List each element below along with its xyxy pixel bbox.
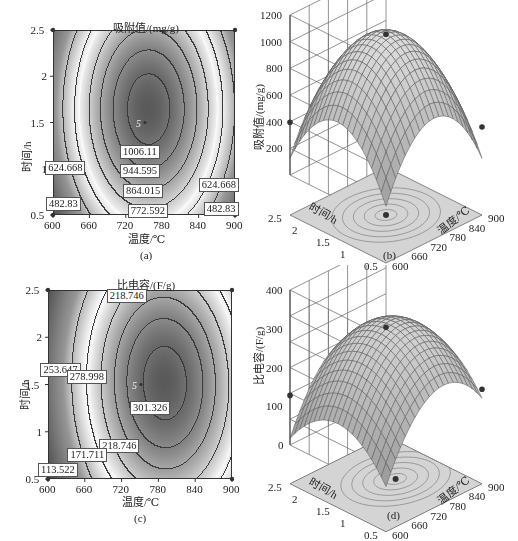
z-tick-label: 200	[266, 363, 283, 374]
temp-tick-label: 900	[488, 482, 505, 493]
surface-plot-capacitance: 比电容/(F/g) 时间/h 温度/℃ (d) 01002003004000.5…	[250, 265, 518, 538]
z-tick-label: 400	[266, 285, 283, 296]
x-tick-label: 780	[149, 484, 166, 495]
z-tick-label: 400	[266, 117, 283, 128]
x-tick-label: 660	[76, 484, 93, 495]
y-tick-label: 0.5	[31, 210, 45, 221]
y-tick-label: 2	[37, 332, 43, 343]
y-tick-label: 2	[42, 71, 48, 82]
y-tick-label: 1.5	[31, 118, 45, 129]
y-tick-label: 1.5	[26, 380, 40, 391]
x-tick-label: 720	[117, 220, 134, 231]
caption-a: (a)	[140, 250, 152, 261]
x-tick-label: 840	[186, 484, 203, 495]
z-tick-label: 600	[266, 90, 283, 101]
x-tick-label: 720	[113, 484, 130, 495]
contour-label: 218.746	[107, 289, 147, 303]
plot-title-a: 吸附值/(mg/g)	[113, 23, 179, 34]
temp-tick-label: 720	[430, 242, 447, 253]
time-tick-label: 1.5	[316, 237, 330, 248]
contour-label: 772.592	[128, 204, 168, 218]
contour-plot-capacitance: 比电容/(F/g) 时间/h 温度/℃ (c) 6006607207808409…	[0, 265, 260, 538]
z-tick-label: 1000	[260, 37, 282, 48]
z-axis-label-b: 吸附值/(mg/g)	[250, 84, 266, 150]
z-tick-label: 100	[266, 401, 283, 412]
contour-label: 1006.11	[120, 145, 160, 159]
temp-tick-label: 780	[450, 232, 467, 243]
contour-plot-adsorption: 吸附值/(mg/g) 时间/h 温度/℃ (a) 600660720780840…	[0, 0, 260, 265]
temp-tick-label: 840	[469, 491, 486, 502]
y-tick-label: 1	[37, 427, 43, 438]
time-tick-label: 2.5	[268, 482, 282, 493]
z-tick-label: 1200	[260, 10, 282, 21]
contour-label: 482.83	[46, 197, 81, 211]
caption-c: (c)	[134, 513, 146, 524]
time-tick-label: 1.5	[316, 506, 330, 517]
time-tick-label: 2	[292, 494, 298, 505]
contour-label: 482.83	[204, 202, 239, 216]
temp-tick-label: 660	[411, 251, 428, 262]
time-tick-label: 2	[292, 225, 298, 236]
y-tick-label: 2.5	[26, 285, 40, 296]
contour-label: 301.326	[130, 401, 170, 415]
y-axis-label-a: 时间/h	[18, 141, 34, 172]
x-axis-label-a: 温度/℃	[128, 234, 165, 245]
contour-label: 864.015	[123, 184, 163, 198]
z-tick-label: 0	[278, 440, 284, 451]
y-tick-label: 2.5	[31, 25, 45, 36]
temp-tick-label: 780	[450, 501, 467, 512]
x-tick-label: 900	[223, 484, 240, 495]
z-tick-label: 200	[266, 143, 283, 154]
surface-plot-adsorption: 吸附值/(mg/g) 时间/h 温度/℃ (b) 200400600800100…	[250, 0, 518, 265]
x-tick-label: 600	[44, 220, 61, 231]
x-tick-label: 660	[80, 220, 97, 231]
contour-label: 944.595	[120, 164, 160, 178]
x-tick-label: 600	[39, 484, 56, 495]
z-tick-label: 800	[266, 63, 283, 74]
time-tick-label: 2.5	[268, 213, 282, 224]
x-tick-label: 780	[153, 220, 170, 231]
temp-tick-label: 720	[430, 511, 447, 522]
contour-label: 624.668	[199, 178, 239, 192]
temp-tick-label: 600	[392, 530, 409, 541]
time-tick-label: 1	[340, 518, 346, 529]
x-tick-label: 840	[190, 220, 207, 231]
temp-tick-label: 660	[411, 520, 428, 531]
x-axis-label-c: 温度/℃	[122, 497, 159, 508]
z-tick-label: 300	[266, 324, 283, 335]
z-axis-label-d: 比电容/(F/g)	[250, 327, 266, 385]
contour-label: 624.668	[45, 161, 85, 175]
time-tick-label: 1	[340, 249, 346, 260]
caption-d: (d)	[387, 510, 400, 521]
contour-label: 278.998	[67, 370, 107, 384]
contour-label: 113.522	[38, 463, 78, 477]
temp-tick-label: 840	[469, 223, 486, 234]
temp-tick-label: 900	[488, 213, 505, 224]
time-tick-label: 0.5	[364, 530, 378, 541]
contour-label: 171.711	[67, 448, 107, 462]
x-tick-label: 900	[226, 220, 243, 231]
